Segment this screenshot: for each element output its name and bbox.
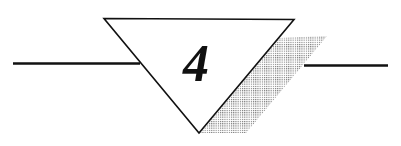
marker-graphic: 4 <box>0 0 401 146</box>
marker-number: 4 <box>182 35 209 92</box>
section-marker-diagram: 4 <box>0 0 401 146</box>
